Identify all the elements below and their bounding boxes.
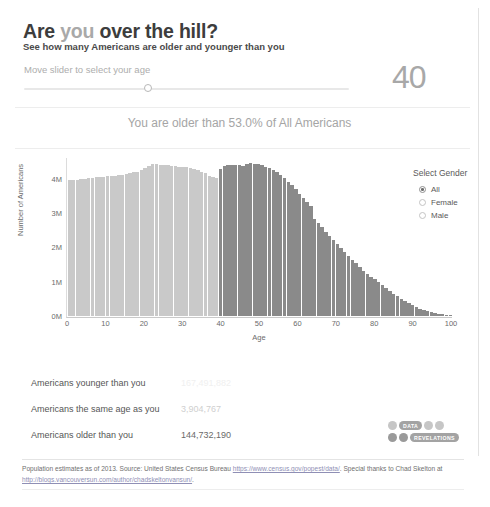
gender-option-all[interactable]: All [413,183,490,196]
y-axis-tick-label: 3M [36,209,62,218]
y-axis-ticks: 0M1M2M3M4M [32,158,62,318]
histogram-bar[interactable] [449,315,452,316]
x-axis-title: Age [66,333,452,342]
logo-row-bottom: REVELATIONS [388,433,461,442]
footer-text-1: Population estimates as of 2013. Source:… [22,465,233,472]
gender-filter-options: AllFemaleMale [413,183,490,222]
statistic-row: Americans older than you144,732,190 [31,430,331,456]
selected-age-value: 40 [392,59,426,96]
right-border-line [478,8,479,456]
plot-area [66,158,452,318]
page-title: Are you over the hill? [23,20,218,43]
comparison-banner: You are older than 53.0% of All American… [0,116,479,130]
data-revelations-logo: DATA REVELATIONS [388,421,466,445]
statistic-value: 144,732,190 [181,430,231,440]
age-slider-handle[interactable] [144,84,152,92]
gender-option-label: All [431,185,440,194]
footer-text-2: . Special thanks to Chad Skelton at [340,465,443,472]
statistic-label: Americans older than you [31,430,133,440]
logo-row-top: DATA [388,421,446,430]
x-axis-tick-label: 50 [255,319,263,328]
census-source-link[interactable]: https://www.census.gov/popest/data/ [233,465,340,472]
page-title-part1: Are [23,20,60,42]
logo-revelations-label: REVELATIONS [410,433,459,442]
page-title-part2: over the hill? [94,20,218,42]
y-axis-tick-label: 1M [36,278,62,287]
statistics-list: Americans younger than you167,491,882Ame… [31,378,331,456]
logo-dot-icon [424,421,433,430]
chad-skelton-link[interactable]: http://blogs.vancouversun.com/author/cha… [22,476,192,483]
radio-button-icon[interactable] [419,199,426,206]
gender-option-female[interactable]: Female [413,196,490,209]
x-axis-tick-label: 40 [216,319,224,328]
age-histogram-chart: Number of Americans 0M1M2M3M4M 010203040… [20,158,475,358]
gender-option-label: Male [431,211,448,220]
x-axis-tick-label: 70 [332,319,340,328]
statistic-row: Americans younger than you167,491,882 [31,378,331,404]
statistic-value: 3,904,767 [181,404,221,414]
y-axis-tick-label: 2M [36,243,62,252]
statistic-row: Americans the same age as you3,904,767 [31,404,331,430]
visualization-panel: Are you over the hill? See how many Amer… [0,0,490,507]
page-title-highlight: you [60,20,94,42]
y-axis-tick-label: 0M [36,312,62,321]
y-axis-tick-label: 4M [36,175,62,184]
gender-filter: Select Gender AllFemaleMale [413,168,490,222]
footer-attribution: Population estimates as of 2013. Source:… [22,464,462,486]
x-axis-ticks: 0102030405060708090100 [66,319,452,333]
radio-button-icon[interactable] [419,212,426,219]
statistic-label: Americans the same age as you [31,404,160,414]
slider-instruction-label: Move slider to select your age [24,64,150,75]
page-subtitle: See how many Americans are older and you… [23,41,285,52]
x-axis-tick-label: 10 [101,319,109,328]
gender-option-male[interactable]: Male [413,209,490,222]
x-axis-tick-label: 30 [178,319,186,328]
x-axis-tick-label: 100 [445,319,458,328]
footer-divider-top [22,459,464,460]
x-axis-tick-label: 80 [370,319,378,328]
gender-filter-title: Select Gender [413,168,490,178]
statistic-value: 167,491,882 [181,378,231,388]
y-axis-title: Number of Americans [16,164,25,236]
logo-dot-icon [388,433,397,442]
logo-dot-icon [435,421,444,430]
statistic-label: Americans younger than you [31,378,146,388]
header-divider [15,107,470,108]
logo-dot-icon [388,421,397,430]
gender-option-label: Female [431,198,458,207]
footer-text-3: . [192,476,194,483]
x-axis-tick-label: 60 [293,319,301,328]
age-slider-track[interactable] [24,88,349,90]
logo-data-label: DATA [399,421,422,430]
x-axis-tick-label: 90 [408,319,416,328]
x-axis-tick-label: 0 [65,319,69,328]
logo-dot-icon [399,433,408,442]
footer-divider-bottom [22,489,464,490]
radio-button-icon[interactable] [419,186,426,193]
x-axis-tick-label: 20 [140,319,148,328]
histogram-bars [68,158,452,316]
banner-divider [15,148,470,149]
